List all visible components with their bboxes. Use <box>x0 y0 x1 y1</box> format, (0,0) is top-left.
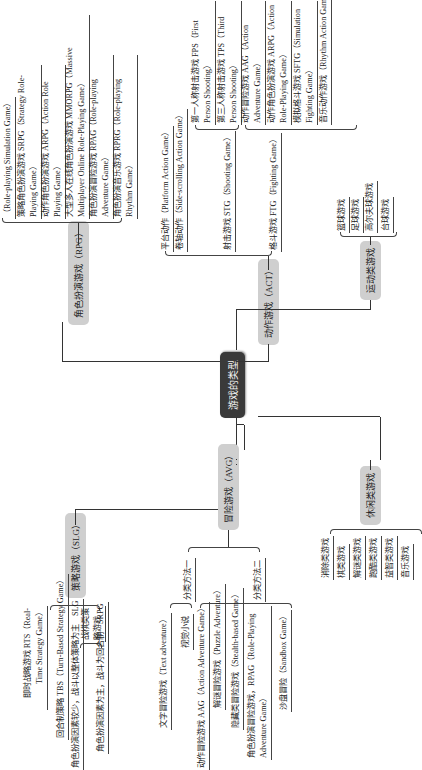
connector <box>228 530 229 548</box>
slg-sub-item[interactable]: 角色扮演因素较少，战斗以整体策略为主 SLG <box>70 599 84 770</box>
stg-item[interactable]: 第一人称射击游戏 FPS（First Person Shooting） <box>190 1 216 125</box>
avg-m1-item[interactable]: 视觉小说 <box>180 614 194 650</box>
avg-method-2[interactable]: 分类方法二 <box>252 558 266 602</box>
casual-item[interactable]: 解谜类游戏 <box>352 536 366 580</box>
ftg-item[interactable]: 动作冒险游戏 AAG（Action Adventure Game） <box>240 1 266 125</box>
stg-bracket <box>195 125 239 130</box>
sports-item[interactable]: 高尔夫球游戏 <box>364 181 378 233</box>
casual-item[interactable]: 音乐游戏 <box>400 544 414 580</box>
avg-m2-item[interactable]: 隐藏类冒险游戏（Stealth-based Game） <box>230 588 244 730</box>
connector <box>258 416 380 417</box>
connector <box>78 223 79 245</box>
ftg-item[interactable]: 模拟格斗游戏 SFTG（Simulation Fighting Game） <box>292 1 318 125</box>
avg-m2-item[interactable]: 动作冒险游戏 AAG（Action Adventure Game） <box>196 602 210 770</box>
casual-item[interactable]: 益智类游戏 <box>384 536 398 580</box>
category-act[interactable]: 动作游戏（ACT） <box>258 259 279 345</box>
connector <box>236 459 237 460</box>
connector <box>370 460 371 470</box>
avg-m1-bracket <box>170 603 192 608</box>
sports-item[interactable]: 篮球游戏 <box>336 197 350 233</box>
avg-method-1[interactable]: 分类方法一 <box>182 558 196 602</box>
rpg-item[interactable]: 大型多人在线角色扮演游戏 MMORPG（Massive Multiplayer … <box>64 15 90 219</box>
connector <box>236 424 244 425</box>
avg-bracket <box>188 547 260 552</box>
casual-bracket <box>330 529 422 534</box>
sports-item[interactable]: 足球游戏 <box>350 197 364 233</box>
category-sports[interactable]: 运动类游戏 <box>360 241 381 300</box>
slg-item[interactable]: 回合制策略 TBS（Turn-Based Strategy Game） <box>55 574 69 740</box>
connector <box>75 509 236 510</box>
connector <box>380 417 381 460</box>
rpg-item[interactable]: 角色扮演冒险游戏 RPAG（Role-playing Adventure Gam… <box>88 55 114 219</box>
connector <box>236 464 237 465</box>
slg-item[interactable]: 即时战略游戏 RTS（Real-Time Strategy Game） <box>22 606 48 710</box>
avg-m2-item[interactable]: 沙盘冒险（Sandbox Game） <box>278 610 292 712</box>
connector <box>236 310 237 350</box>
act-item[interactable]: 格斗游戏 FTG（Fighting Game） <box>268 133 282 252</box>
rpg-item[interactable]: 角色扮演音乐游戏 RPRG（Role-playing Rhythm Game） <box>112 55 138 219</box>
slg-sub-item[interactable]: 角色扮演因素为主，战斗为回合制 SRPG <box>95 602 109 754</box>
casual-item[interactable]: 消除类游戏 <box>320 536 334 580</box>
category-casual[interactable]: 休闲类游戏 <box>360 466 381 525</box>
sports-item[interactable]: 台球游戏 <box>380 197 394 233</box>
connector <box>268 344 269 362</box>
connector <box>244 425 245 450</box>
ftg-bracket <box>245 125 357 130</box>
casual-item[interactable]: 棋类游戏 <box>336 544 350 580</box>
rpg-item[interactable]: 策略角色扮演游戏 SRPG（Strategy Role-Playing Game… <box>16 65 42 219</box>
connector <box>268 256 269 270</box>
ftg-item[interactable]: 动作角色扮演游戏 ARPG（Action Role-Playing Game） <box>266 1 292 125</box>
rpg-item[interactable]: （Role-playing Simulation Game） <box>2 97 16 219</box>
avg-m2-item[interactable]: 解谜冒险游戏（Puzzle Adventure） <box>212 584 226 710</box>
connector <box>370 237 371 245</box>
stg-item[interactable]: 第三人称射击游戏 TPS（Third Person Shooting） <box>216 1 242 125</box>
connector <box>62 361 220 362</box>
avg-m1-item[interactable]: 文字冒险游戏（Text adventure） <box>158 613 172 730</box>
avg-m2-item[interactable]: 角色扮演冒险游戏，RPAG（Role-Playing Adventure Gam… <box>246 606 272 760</box>
connector <box>370 300 371 310</box>
casual-item[interactable]: 跑酷类游戏 <box>368 536 382 580</box>
connector <box>236 361 268 362</box>
connector <box>236 309 370 310</box>
rpg-item[interactable]: 动作角色扮演游戏 ARPG（Action Role Playing Game） <box>40 65 66 219</box>
act-item[interactable]: 卷轴动作（Side-scrolling Action Game） <box>174 109 188 252</box>
act-item[interactable]: 射击游戏 STG（Shooting Game） <box>222 131 236 252</box>
category-avg[interactable]: 冒险游戏（AVG） <box>218 444 239 530</box>
connector <box>75 510 76 525</box>
ftg-item[interactable]: 音乐动作游戏（Rhythm Action Game） <box>318 0 332 125</box>
connector <box>62 322 63 362</box>
act-item[interactable]: 平台动作（Platform Action Game） <box>160 126 174 252</box>
